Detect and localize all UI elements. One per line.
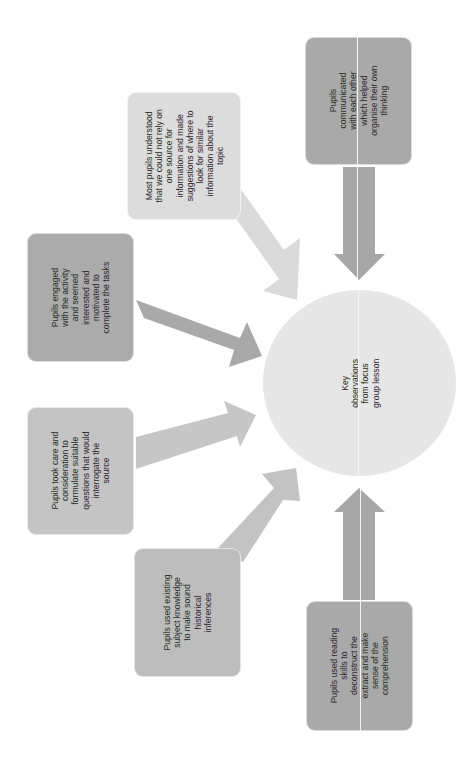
node-engaged: Pupils engaged with the activity and see… [27,233,134,362]
divider-line-top [357,37,358,280]
node-communicated-label: Pupils communicated with each other whic… [328,41,389,161]
arrow-engaged [136,300,262,367]
arrow-communicated [334,167,385,280]
node-took-care-label: Pupils took care and consideration to fo… [50,411,111,531]
node-communicated: Pupils communicated with each other whic… [305,37,412,165]
center-node-label: Key observations from focus group lesson [339,338,380,428]
divider-line-center [358,290,359,476]
arrow-took-care [136,401,256,469]
node-existing-knowledge: Pupils used existing subject knowledge t… [134,548,241,677]
node-engaged-label: Pupils engaged with the activity and see… [50,238,111,358]
node-understood: Most pupils understood that we could not… [127,92,241,220]
node-existing-knowledge-label: Pupils used existing subject knowledge t… [162,552,213,672]
node-took-care: Pupils took care and consideration to fo… [27,407,134,535]
center-node: Key observations from focus group lesson [263,290,456,476]
divider-line-bottom [360,488,361,731]
node-understood-label: Most pupils understood that we could not… [143,94,225,219]
